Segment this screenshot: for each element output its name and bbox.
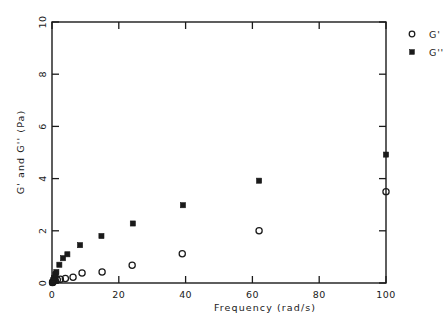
y-axis-label: G' and G'' (Pa) (15, 110, 26, 195)
legend-label: G'' (429, 47, 444, 58)
legend-marker (410, 50, 415, 55)
x-axis-ticks (52, 22, 386, 283)
x-tick-label: 0 (49, 289, 55, 300)
y-axis-tick-labels: 0246810 (37, 16, 48, 287)
y-tick-label: 8 (37, 71, 48, 77)
y-tick-label: 2 (37, 228, 48, 234)
data-point (129, 262, 135, 268)
y-tick-label: 10 (37, 16, 48, 29)
chart-canvas: 020406080100 0246810 Frequency (rad/s) G… (0, 0, 445, 325)
y-axis-ticks (52, 22, 386, 283)
x-tick-label: 100 (376, 289, 395, 300)
data-point (77, 243, 82, 248)
data-point (383, 152, 388, 157)
x-tick-label: 20 (112, 289, 125, 300)
chart-legend: G'G'' (409, 29, 444, 58)
scatter-plot: 020406080100 0246810 Frequency (rad/s) G… (0, 0, 445, 325)
data-point (256, 228, 262, 234)
x-tick-label: 60 (246, 289, 259, 300)
x-axis-label: Frequency (rad/s) (214, 302, 316, 313)
y-tick-label: 6 (37, 123, 48, 129)
data-point (130, 221, 135, 226)
data-point (79, 270, 85, 276)
series-g-double-prime-points (50, 152, 389, 286)
data-point (99, 269, 105, 275)
x-tick-label: 80 (313, 289, 326, 300)
data-point (70, 274, 76, 280)
legend-label: G' (429, 29, 441, 40)
data-point (57, 262, 62, 267)
data-point (54, 269, 59, 274)
x-axis-tick-labels: 020406080100 (49, 289, 396, 300)
data-point (180, 203, 185, 208)
data-point (99, 233, 104, 238)
data-point (179, 251, 185, 257)
y-tick-label: 4 (37, 175, 48, 181)
data-point (257, 178, 262, 183)
data-point (65, 252, 70, 257)
y-tick-label: 0 (37, 280, 48, 286)
x-tick-label: 40 (179, 289, 192, 300)
legend-marker (409, 31, 415, 37)
plot-frame (52, 22, 386, 283)
